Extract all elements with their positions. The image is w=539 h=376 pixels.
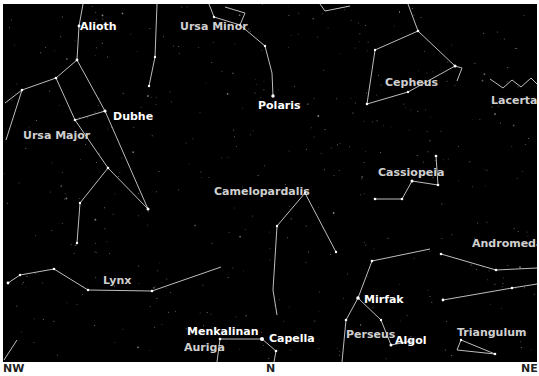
constellation-label-lynx: Lynx [103, 274, 131, 287]
constellation-lines [3, 4, 537, 362]
star-label-polaris: Polaris [258, 99, 301, 112]
star-label-menkalinan: Menkalinan [187, 325, 259, 338]
constellation-label-camelopardalis: Camelopardalis [214, 185, 310, 198]
constellation-label-ursa-minor: Ursa Minor [180, 20, 248, 33]
star-label-capella: Capella [269, 332, 315, 345]
constellation-label-cassiopeia: Cassiopeia [378, 166, 444, 179]
direction-label-ne: NE [521, 362, 538, 375]
constellation-label-ursa-major: Ursa Major [23, 129, 90, 142]
constellation-label-andromeda: Andromeda [472, 237, 537, 250]
constellation-label-cepheus: Cepheus [385, 76, 438, 89]
star-label-algol: Algol [395, 334, 427, 347]
direction-label-nw: NW [3, 362, 24, 375]
background-stars [4, 4, 535, 359]
constellation-label-triangulum: Triangulum [457, 326, 527, 339]
star-label-alioth: Alioth [80, 20, 117, 33]
constellation-label-auriga: Auriga [184, 341, 225, 354]
constellation-label-perseus: Perseus [346, 328, 395, 341]
sky-map: Alioth Ursa Minor Cepheus Lacerta Polari… [3, 4, 537, 362]
star-label-mirfak: Mirfak [364, 293, 404, 306]
direction-label-n: N [266, 362, 275, 375]
constellation-label-lacerta: Lacerta [491, 94, 537, 107]
star-label-dubhe: Dubhe [113, 110, 153, 123]
